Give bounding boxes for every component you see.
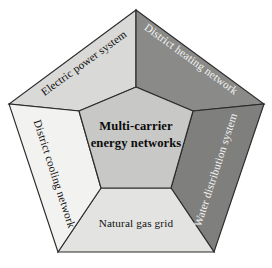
- facet-label-natural-gas-grid: Natural gas grid: [99, 217, 174, 229]
- pentagon-diagram-canvas: Electric power system District heating n…: [0, 0, 272, 268]
- center-label-line1: Multi-carrier: [99, 119, 173, 133]
- pentagon-diagram: Electric power system District heating n…: [0, 0, 272, 268]
- center-label-line2: energy networks: [91, 136, 182, 150]
